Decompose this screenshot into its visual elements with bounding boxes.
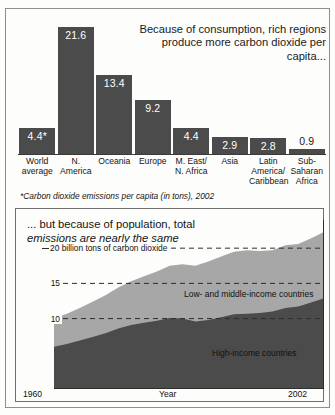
bar-chart-category-labels: WorldaverageN.AmericaOceaniaEuropeM. Eas… xyxy=(18,157,326,191)
series-label-high-income: High-income countries xyxy=(212,348,297,358)
bar-column: 13.4 xyxy=(96,19,132,154)
series-label-low-middle-income: Low- and middle-income countries xyxy=(184,289,313,299)
area-series-group xyxy=(54,232,324,389)
bar-column: 21.6 xyxy=(58,19,94,154)
per-capita-bar-chart-panel: Because of consumption, rich regions pro… xyxy=(12,11,330,201)
bar-column: 2.8 xyxy=(250,19,286,154)
bar-value-label: 9.2 xyxy=(135,102,171,114)
bar-chart-footnote: *Carbon dioxide emissions per capita (in… xyxy=(20,191,214,201)
bar-category-label: N.America xyxy=(57,157,96,177)
bar-category-label: Oceania xyxy=(95,157,134,167)
bar-column: 4.4 xyxy=(173,19,209,154)
x-axis-start-label: 1960 xyxy=(23,389,42,399)
bar-category-label: M. East/N. Africa xyxy=(172,157,211,177)
infographic-outer-frame: Because of consumption, rich regions pro… xyxy=(5,8,330,408)
x-axis-end-label: 2002 xyxy=(288,389,307,399)
bar-category-label: Worldaverage xyxy=(18,157,57,177)
bar-category-label: LatinAmerica/Caribbean xyxy=(249,157,288,186)
bar-category-label: Sub-SaharanAfrica xyxy=(288,157,327,186)
area-y-tick-label: 15 xyxy=(40,278,62,288)
area-chart-x-axis-labels: 1960 Year 2002 xyxy=(16,389,325,403)
bar-category-label: Europe xyxy=(134,157,173,167)
bar-value-label: 0.9 xyxy=(289,135,325,147)
bar-column: 0.9 xyxy=(289,19,325,154)
area-y-tick-label: 20 billion tons of carbon dioxide xyxy=(50,243,169,253)
bar-value-label: 21.6 xyxy=(58,29,94,41)
bar-value-label: 2.8 xyxy=(250,140,286,152)
x-axis-title: Year xyxy=(159,389,176,399)
bar-value-label: 4.4* xyxy=(19,130,55,142)
bar-value-label: 2.9 xyxy=(212,139,248,151)
bar-value-label: 13.4 xyxy=(96,77,132,89)
bar-value-label: 4.4 xyxy=(173,130,209,142)
bar-column: 9.2 xyxy=(135,19,171,154)
bar-category-label: Asia xyxy=(211,157,250,167)
total-emissions-area-chart-panel: ... but because of population, total emi… xyxy=(15,208,324,402)
area-y-tick xyxy=(42,248,49,249)
bar-column: 2.9 xyxy=(212,19,248,154)
bar-rect xyxy=(58,27,94,154)
bar-chart-plot-area: 4.4*21.613.49.24.42.92.80.9 xyxy=(18,19,326,154)
area-y-tick-label: 10 xyxy=(40,314,62,324)
infographic-page: Because of consumption, rich regions pro… xyxy=(0,0,335,415)
bar-chart-baseline xyxy=(18,154,326,155)
bar-column: 4.4* xyxy=(19,19,55,154)
